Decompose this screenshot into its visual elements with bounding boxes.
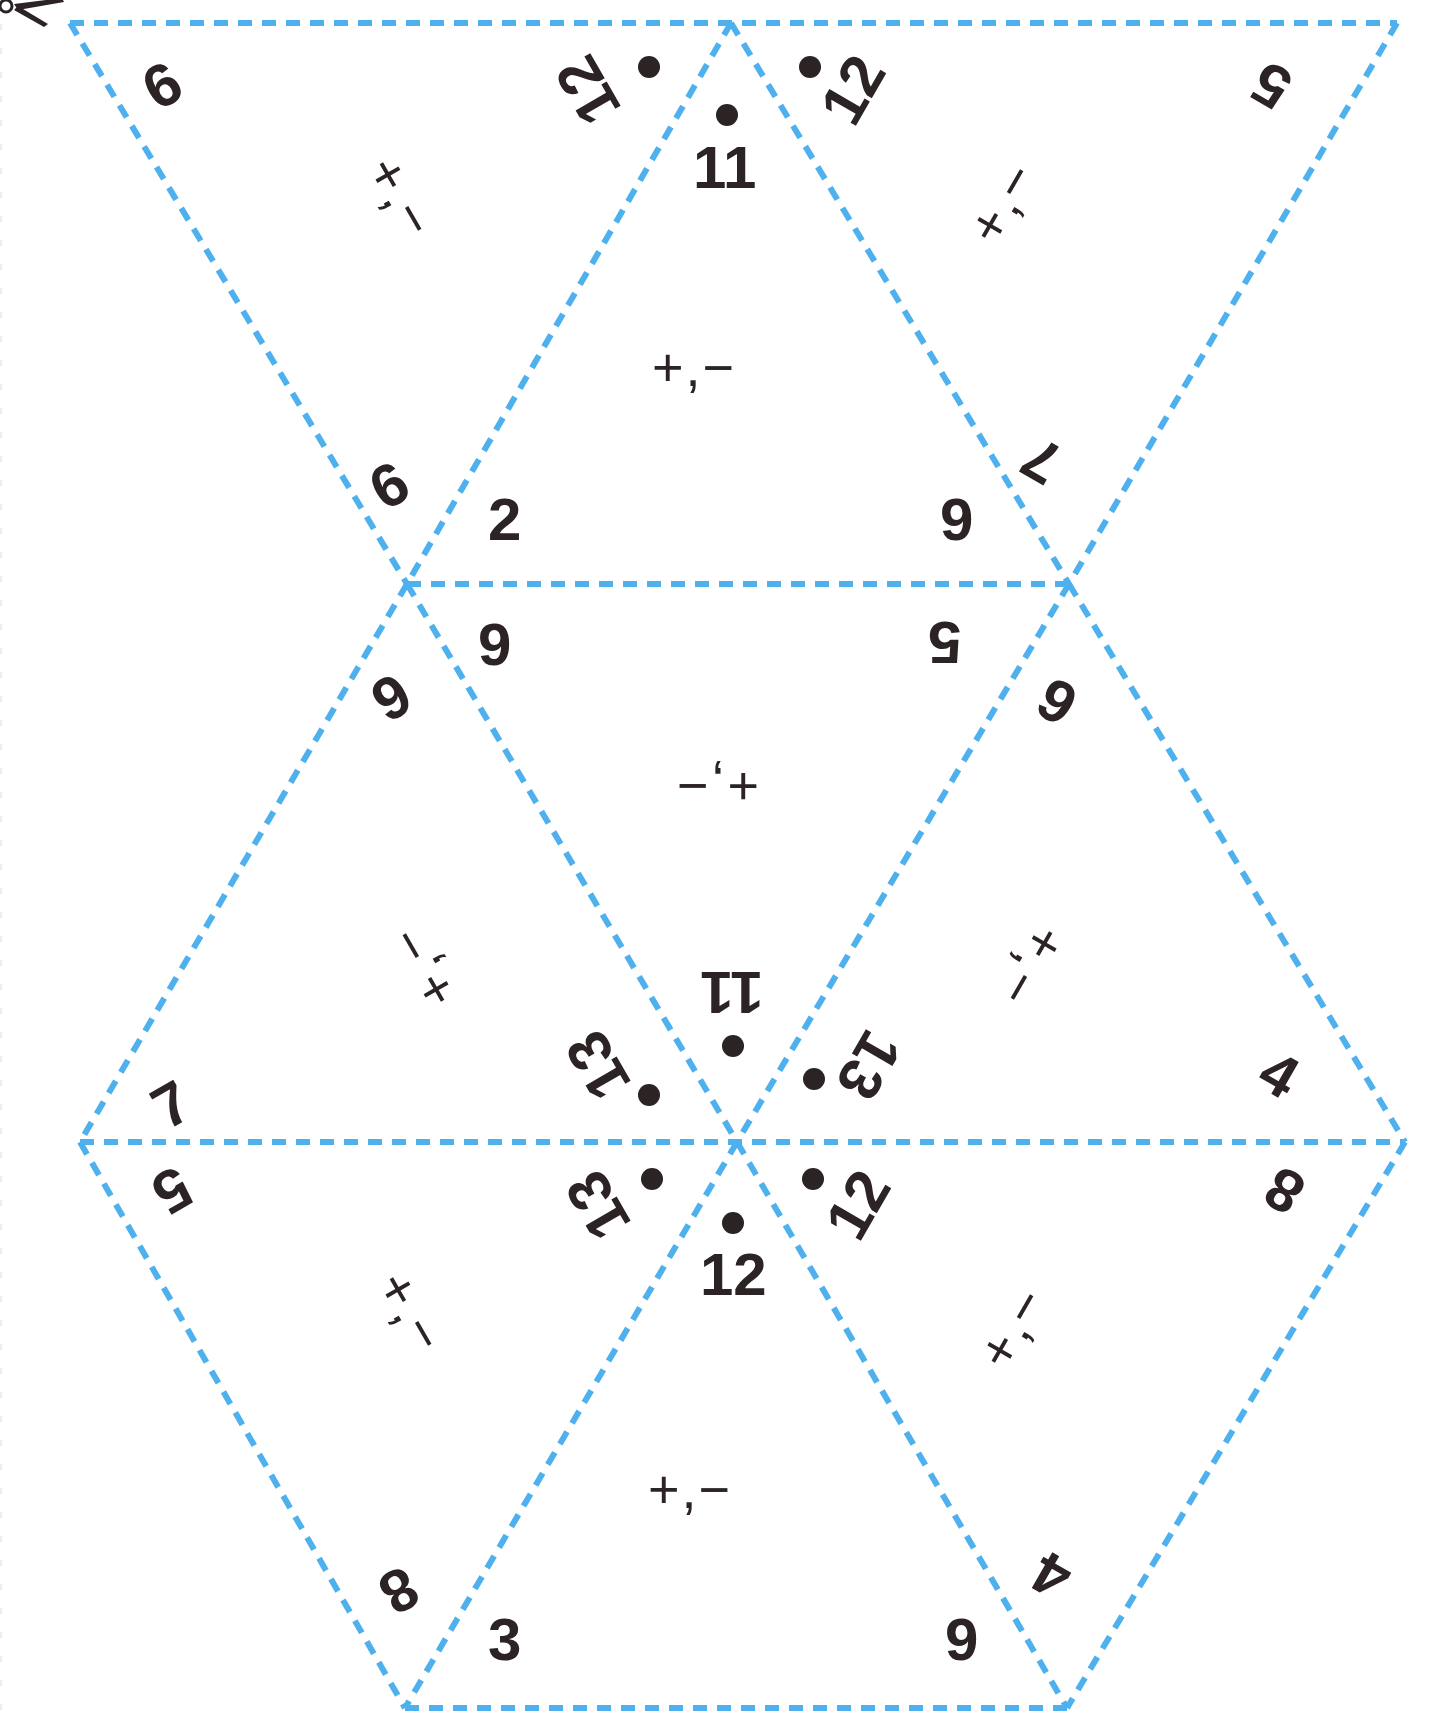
t5-dot	[638, 1084, 660, 1106]
t8-label-a: 12	[700, 1245, 767, 1305]
t6-dot	[803, 1068, 825, 1090]
scissors-icon	[0, 0, 74, 40]
t8-label-c: 9	[945, 1610, 978, 1670]
t4-ops: +,−	[675, 760, 759, 814]
t2-ops: +,−	[652, 340, 736, 394]
t8-ops: +,−	[648, 1462, 732, 1516]
t4-label-c: 11	[700, 962, 763, 1022]
t1-dot	[638, 56, 660, 78]
t4-label-b: 5	[928, 612, 961, 672]
t4-dot	[722, 1035, 744, 1057]
t7-dot	[641, 1168, 663, 1190]
t2-label-c: 9	[940, 490, 973, 550]
t3-dot	[799, 56, 821, 78]
t4-label-a: 9	[478, 615, 511, 675]
puzzle-sheet: 9 12 9 +,− 11 2 9 +,− 12 5 7 +,− 9 5 11 …	[0, 0, 1446, 1718]
t2-label-b: 2	[488, 490, 521, 550]
t2-dot	[716, 104, 738, 126]
t2-label-a: 11	[693, 138, 756, 198]
t8-label-b: 3	[488, 1610, 521, 1670]
t8-dot	[722, 1212, 744, 1234]
t9-dot	[802, 1168, 824, 1190]
